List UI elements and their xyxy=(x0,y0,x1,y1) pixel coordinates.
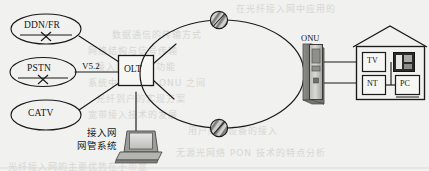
source-label-pstn: PSTN xyxy=(27,63,51,73)
link-olt-ring-lower xyxy=(153,80,174,99)
nt-label: NT xyxy=(367,79,378,88)
interface-label-v52: V5.2 xyxy=(82,61,100,71)
pc-label: PC xyxy=(400,79,410,88)
olt-label: OLT xyxy=(124,64,142,74)
topology-vector-layer xyxy=(0,0,429,171)
telephone-icon xyxy=(394,53,415,72)
link-ddnfr-olt xyxy=(79,36,119,62)
source-label-ddn-fr: DDN/FR xyxy=(24,20,60,30)
diagram-canvas: 在光纤接入网中应用的数据通信的传输方式网络结构与信号传输接入网的基本功能系统中 … xyxy=(0,0,429,171)
fibre-ring xyxy=(140,20,304,128)
tv-label: TV xyxy=(367,56,378,65)
link-catv-olt xyxy=(79,83,119,110)
ring-node-bottom xyxy=(210,119,227,136)
management-laptop xyxy=(115,131,162,163)
link-olt-ring-upper xyxy=(153,44,176,64)
management-label-line1: 接入网 xyxy=(87,127,117,139)
onu-device xyxy=(303,44,324,104)
ring-node-top xyxy=(210,11,227,28)
onu-label: ONU xyxy=(301,33,319,43)
source-label-catv: CATV xyxy=(28,108,54,118)
management-label-line2: 网管系统 xyxy=(77,140,117,152)
